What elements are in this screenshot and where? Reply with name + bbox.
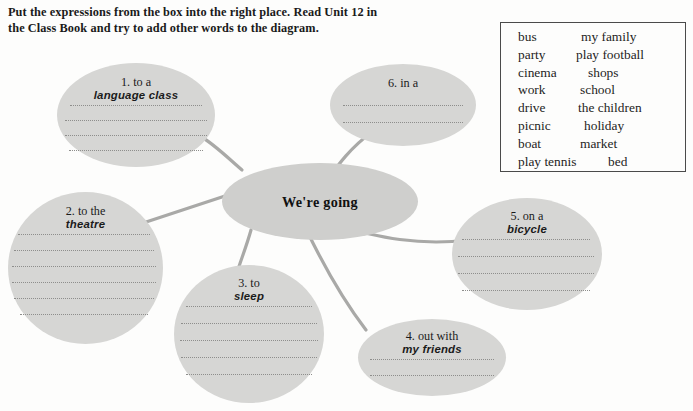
branch-answer-5: bicycle xyxy=(452,223,602,235)
writing-rule xyxy=(370,375,494,376)
writing-rule xyxy=(18,234,150,235)
writing-rule xyxy=(180,340,318,341)
branch-oval-4[interactable]: 4. out with my friends xyxy=(358,319,506,396)
branch-answer-1: language class xyxy=(57,89,215,101)
writing-rule xyxy=(65,135,207,136)
writing-rule xyxy=(186,374,312,375)
writing-rule xyxy=(20,314,148,315)
branch-answer-4: my friends xyxy=(358,343,506,355)
writing-rule xyxy=(70,105,202,106)
center-label: We're going xyxy=(222,193,418,210)
writing-rule xyxy=(462,239,590,240)
branch-answer-2: theatre xyxy=(8,218,163,230)
branch-oval-6[interactable]: 6. in a xyxy=(330,64,476,146)
writing-rule xyxy=(14,298,154,299)
branch-title-2: 2. to the xyxy=(8,204,163,219)
connector-branch-1 xyxy=(200,136,242,170)
writing-rule xyxy=(458,273,594,274)
writing-rule xyxy=(65,120,207,121)
writing-rule xyxy=(14,250,154,251)
writing-rule xyxy=(343,105,463,106)
branch-oval-1[interactable]: 1. to a language class xyxy=(57,63,215,167)
writing-rule xyxy=(69,150,203,151)
branch-title-1: 1. to a xyxy=(57,75,215,90)
writing-rule xyxy=(186,306,312,307)
center-oval[interactable]: We're going xyxy=(222,163,418,240)
branch-title-6: 6. in a xyxy=(330,76,476,91)
writing-rule xyxy=(181,323,317,324)
branch-oval-2[interactable]: 2. to the theatre xyxy=(8,192,163,344)
branch-title-5: 5. on a xyxy=(452,209,602,224)
writing-rule xyxy=(462,290,590,291)
branch-title-4: 4. out with xyxy=(358,329,506,344)
writing-rule xyxy=(12,282,156,283)
writing-rule xyxy=(12,266,156,267)
branch-oval-5[interactable]: 5. on a bicycle xyxy=(452,198,602,310)
writing-rule xyxy=(370,359,494,360)
branch-title-3: 3. to xyxy=(174,276,324,291)
branch-answer-3: sleep xyxy=(174,290,324,302)
writing-rule xyxy=(181,357,317,358)
writing-rule xyxy=(458,256,594,257)
writing-rule xyxy=(343,122,463,123)
branch-oval-3[interactable]: 3. to sleep xyxy=(174,265,324,403)
worksheet-page: Put the expressions from the box into th… xyxy=(0,0,693,411)
